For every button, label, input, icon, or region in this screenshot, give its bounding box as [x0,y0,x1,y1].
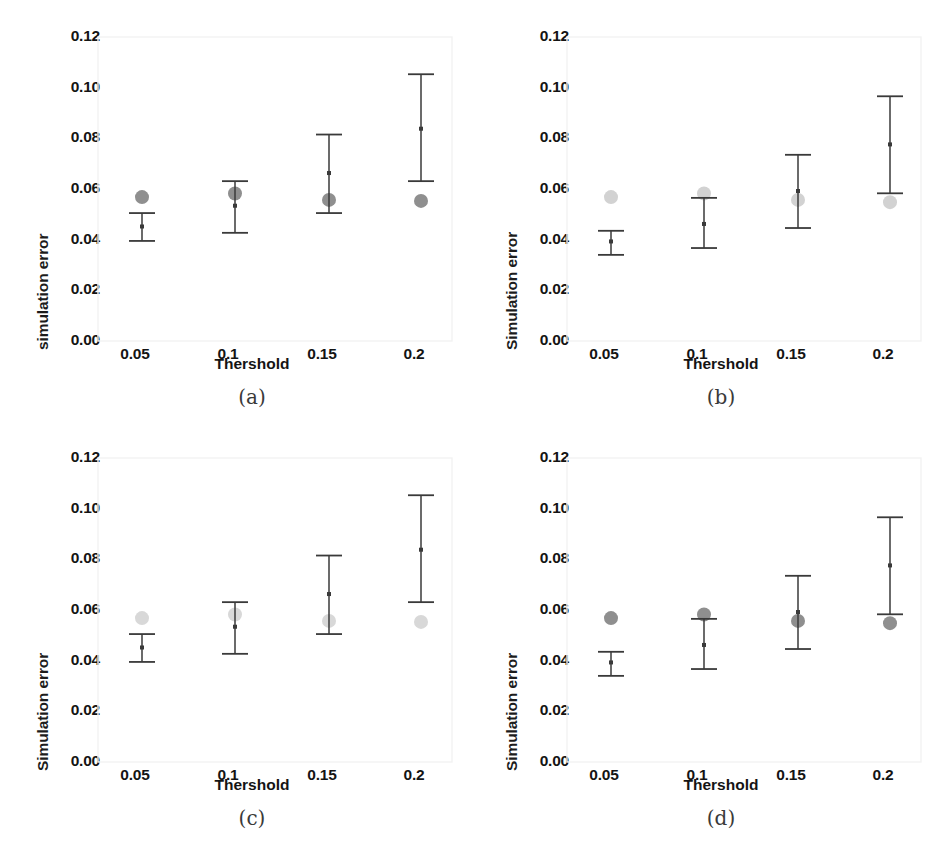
x-tick-label: 0.15 [307,766,336,784]
reference-circle-marker [604,190,618,204]
error-bar [129,213,155,241]
x-tick-label: 0.05 [589,766,618,784]
plot-frame [98,458,452,762]
y-axis-label-wrap-c: Simulation error [34,551,56,771]
x-tick-label: 0.2 [404,345,425,363]
error-bar [316,135,342,214]
error-bar-mean-marker [609,660,613,664]
subcaption-wrap-d: (d) [469,806,937,830]
x-tick-label: 0.1 [687,345,708,363]
subcaption-c: (c) [239,806,266,830]
plot-frame [567,37,921,341]
reference-circle-marker [604,611,618,625]
x-tick-label: 0.2 [873,345,894,363]
reference-circle-marker [883,195,897,209]
x-tick-label: 0.1 [218,766,239,784]
x-tick-label: 0.2 [404,766,425,784]
x-tick-label: 0.15 [776,345,805,363]
error-bar [129,634,155,662]
error-bar [598,652,624,676]
figure-four-panel-errorbar: 0.000.020.040.060.080.100.12 simulation … [0,0,937,845]
reference-circle-marker [414,615,428,629]
panel-b: 0.000.020.040.060.080.100.12 Simulation … [469,0,937,422]
x-tick-label: 0.15 [307,345,336,363]
error-bar [222,181,248,233]
reference-circle-marker [135,611,149,625]
panel-d: 0.000.020.040.060.080.100.12 Simulation … [469,421,937,843]
y-axis-label-a: simulation error [34,120,56,350]
y-axis-label-d: Simulation error [503,541,525,771]
error-bar-mean-marker [796,610,800,614]
panel-a: 0.000.020.040.060.080.100.12 simulation … [0,0,468,422]
y-axis-label-b: Simulation error [503,120,525,350]
subcaption-wrap-b: (b) [469,385,937,409]
x-tick-label: 0.05 [589,345,618,363]
subcaption-wrap-c: (c) [0,806,468,830]
error-bar-mean-marker [702,643,706,647]
x-tick-label: 0.15 [776,766,805,784]
error-bar [785,576,811,649]
error-bar [691,619,717,669]
error-bar-mean-marker [140,645,144,649]
subcaption-a: (a) [238,385,266,409]
plot-frame [567,458,921,762]
error-bar [785,155,811,228]
error-bar-mean-marker [796,189,800,193]
reference-circle-marker [135,190,149,204]
y-axis-label-wrap-d: Simulation error [503,551,525,771]
error-bar-mean-marker [140,224,144,228]
error-bar [316,556,342,635]
x-tick-label: 0.1 [687,766,708,784]
error-bar-mean-marker [888,563,892,567]
error-bar-mean-marker [702,222,706,226]
subcaption-wrap-a: (a) [0,385,468,409]
error-bar [408,495,434,602]
reference-circle-marker [883,616,897,630]
error-bar-mean-marker [609,239,613,243]
error-bar-mean-marker [419,127,423,131]
error-bar [408,74,434,181]
x-tick-label: 0.05 [120,345,149,363]
subcaption-b: (b) [707,385,735,409]
error-bar [598,231,624,255]
error-bar-mean-marker [888,142,892,146]
panel-c: 0.000.020.040.060.080.100.12 Simulation … [0,421,468,843]
error-bar-mean-marker [233,204,237,208]
reference-circle-marker [414,194,428,208]
plot-frame [98,37,452,341]
x-tick-label: 0.1 [218,345,239,363]
subcaption-d: (d) [707,806,735,830]
error-bar [691,198,717,248]
y-axis-label-c: Simulation error [34,541,56,771]
error-bar [877,96,903,193]
error-bar [222,602,248,654]
x-tick-label: 0.05 [120,766,149,784]
error-bar-mean-marker [233,625,237,629]
error-bar-mean-marker [327,171,331,175]
error-bar-mean-marker [327,592,331,596]
y-axis-label-wrap-a: simulation error [34,130,56,350]
x-tick-label: 0.2 [873,766,894,784]
error-bar-mean-marker [419,548,423,552]
error-bar [877,517,903,614]
y-axis-label-wrap-b: Simulation error [503,130,525,350]
